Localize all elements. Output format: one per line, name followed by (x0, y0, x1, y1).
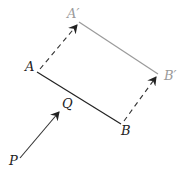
segment-A-prime-B-prime (79, 22, 158, 74)
translation-arrow-A-to-A-prime (40, 25, 77, 69)
vector-PQ-arrow (20, 112, 59, 158)
translation-diagram: A A′ B′ B Q P (0, 0, 183, 173)
segment-AB (37, 72, 121, 124)
label-Q: Q (62, 96, 73, 111)
label-A-prime: A′ (66, 6, 79, 21)
label-A: A (24, 59, 34, 74)
label-B-prime: B′ (163, 68, 177, 83)
translation-arrow-B-to-B-prime (124, 77, 156, 121)
label-B: B (120, 123, 131, 138)
label-P: P (8, 153, 18, 168)
